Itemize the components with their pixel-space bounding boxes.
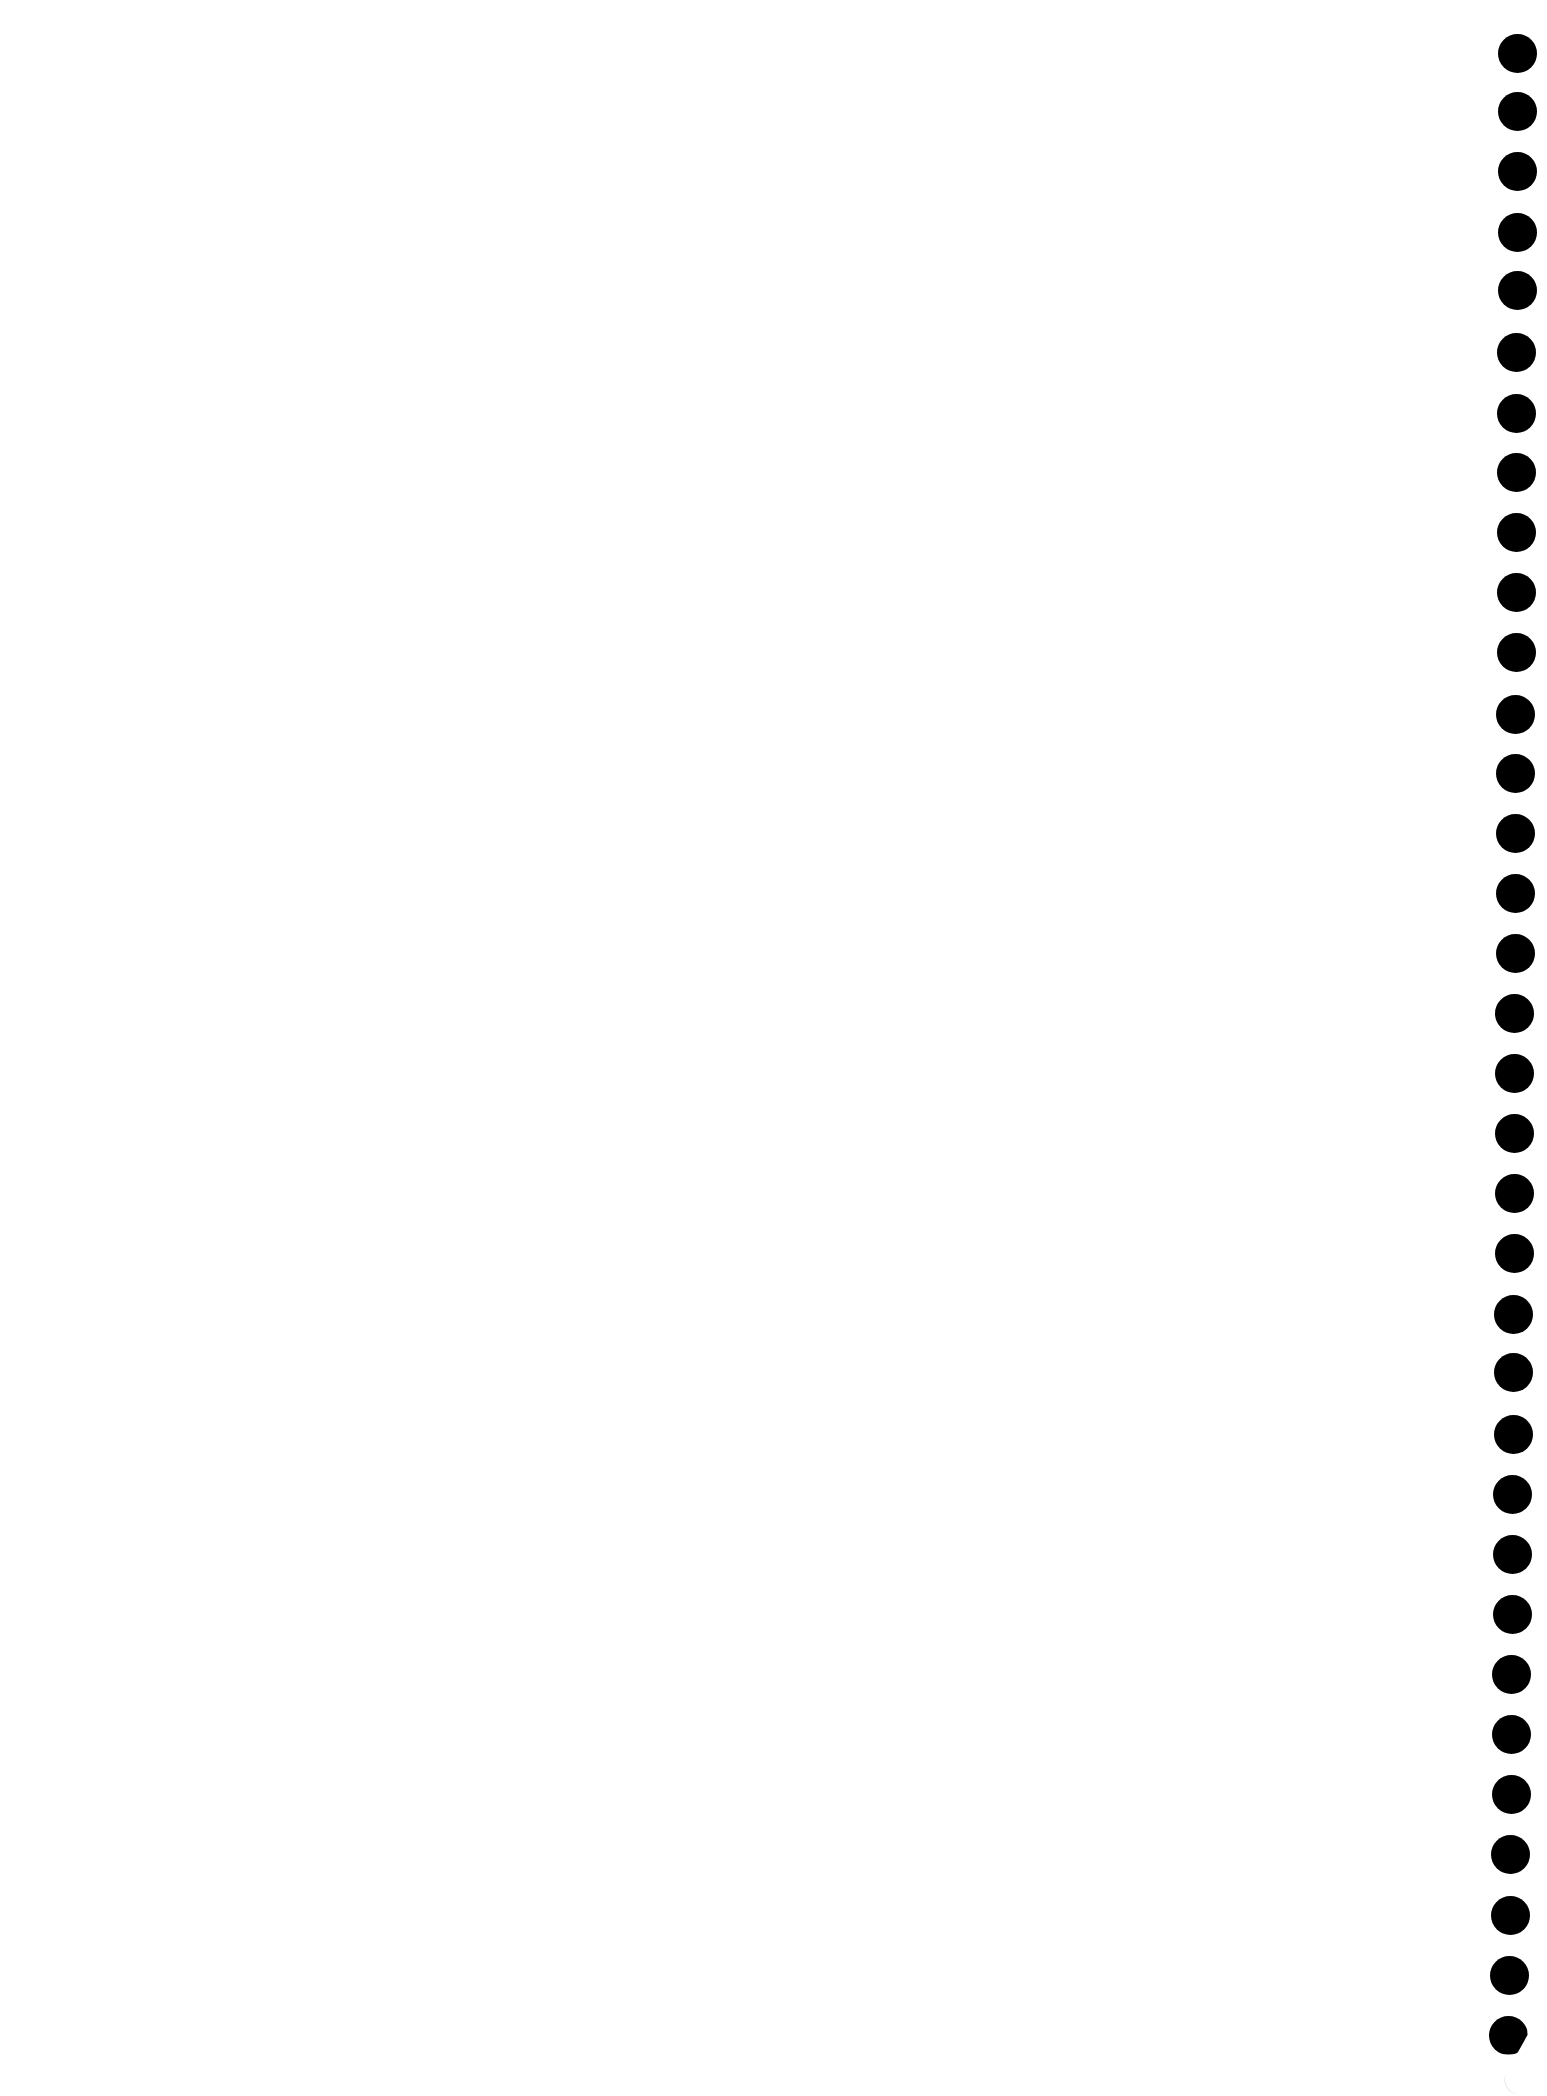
binding-hole-icon [1490, 1956, 1529, 1995]
binding-hole-icon [1496, 934, 1535, 973]
binding-hole-icon [1498, 271, 1537, 310]
binding-hole-icon [1494, 1353, 1533, 1392]
binding-hole-icon [1492, 1655, 1531, 1694]
binding-hole-icon [1495, 1114, 1534, 1153]
binding-hole-icon [1495, 1234, 1534, 1273]
binding-hole-icon [1493, 1475, 1532, 1514]
binding-hole-icon [1498, 213, 1537, 252]
binding-hole-icon [1489, 2016, 1528, 2055]
binding-hole-icon [1498, 34, 1537, 73]
binding-hole-icon [1497, 453, 1536, 492]
binding-hole-icon [1495, 1174, 1534, 1213]
binding-hole-icon [1491, 1896, 1530, 1935]
binding-hole-icon [1495, 1054, 1534, 1093]
binding-hole-icon [1496, 695, 1535, 734]
binding-hole-icon [1497, 633, 1536, 672]
binding-hole-icon [1492, 1775, 1531, 1814]
binding-hole-icon [1498, 152, 1537, 191]
binding-hole-icon [1497, 333, 1536, 372]
binding-hole-icon [1493, 1595, 1532, 1634]
binding-hole-icon [1495, 994, 1534, 1033]
binding-hole-icon [1497, 394, 1536, 433]
binding-hole-icon [1496, 874, 1535, 913]
binding-hole-icon [1496, 814, 1535, 853]
binding-hole-icon [1498, 92, 1537, 131]
binding-hole-icon [1497, 513, 1536, 552]
binding-hole-icon [1494, 1295, 1533, 1334]
tear-mark [1501, 2070, 1524, 2096]
binding-hole-icon [1497, 573, 1536, 612]
binding-hole-icon [1491, 1835, 1530, 1874]
binding-hole-icon [1492, 1715, 1531, 1754]
binding-hole-icon [1494, 1415, 1533, 1454]
binding-hole-icon [1496, 754, 1535, 793]
binding-hole-icon [1493, 1535, 1532, 1574]
